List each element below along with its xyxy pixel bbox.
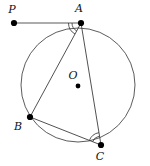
vertex-label-O: O [68,69,77,82]
geometry-figure: P A B C O [0,0,150,166]
geometry-canvas: P A B C O [0,0,150,166]
vertex-label-P: P [7,3,16,16]
vertex-label-B: B [13,120,22,133]
point-dot-B [27,114,33,120]
vertex-label-C: C [96,150,105,163]
vertex-label-A: A [74,2,83,15]
point-dot-P [11,20,17,26]
point-dot-A [78,20,84,26]
point-dot-C [98,142,104,148]
angle-arc-PAB-inner [72,23,77,31]
point-dot-O [76,84,81,89]
chord-segment-AC [81,23,101,145]
